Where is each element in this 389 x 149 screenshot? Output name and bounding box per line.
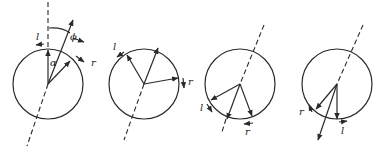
r-direction-arrow	[76, 56, 84, 62]
label-l: l	[36, 31, 39, 42]
panel-3: l r	[200, 25, 275, 137]
axis-dashed-line	[337, 25, 363, 84]
l-direction-arrow	[339, 121, 347, 122]
l-direction-arrow	[207, 104, 212, 112]
axis-arrow	[227, 84, 240, 119]
panel-1: l r α ϕ	[13, 2, 97, 146]
label-r: r	[91, 57, 97, 68]
axis-dashed-line-lower	[222, 119, 226, 132]
label-alpha: α	[50, 57, 57, 68]
r-direction-arrow	[244, 123, 253, 124]
phi-arc	[49, 28, 70, 33]
axis-dashed-line	[27, 84, 48, 146]
r-arrow	[240, 84, 252, 116]
label-phi: ϕ	[70, 31, 77, 42]
l-arrow	[127, 55, 144, 84]
tilted-axis-arrow	[48, 20, 73, 84]
label-r: r	[188, 76, 194, 87]
axis-dashed-line	[124, 84, 144, 140]
axis-arrow	[144, 48, 158, 84]
label-r: r	[299, 106, 305, 117]
r-direction-arrow	[183, 78, 184, 88]
label-l: l	[113, 41, 116, 52]
r-arrow	[144, 78, 178, 84]
panel-2: l r	[109, 41, 194, 140]
label-r: r	[245, 126, 251, 137]
l-direction-arrow	[36, 44, 44, 45]
l-arrow	[211, 84, 240, 100]
label-l: l	[341, 125, 344, 136]
label-l: l	[200, 102, 203, 113]
axis-arrow	[318, 84, 337, 140]
axis-dashed-line-upper	[240, 25, 264, 84]
r-arrow	[316, 84, 337, 109]
panel-4: r l	[299, 25, 372, 140]
figure-canvas: l r α ϕ l r l r r l	[0, 0, 389, 149]
